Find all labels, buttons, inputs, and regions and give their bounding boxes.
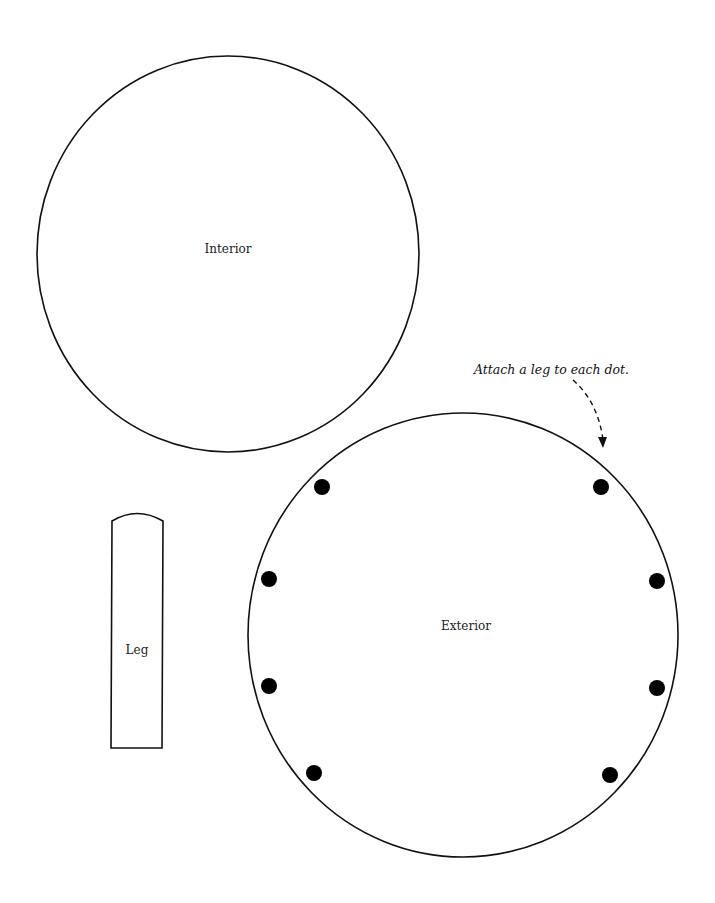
leg-attachment-dot <box>314 479 330 495</box>
leg-attachment-dot <box>602 767 618 783</box>
exterior-piece: Exterior <box>248 413 678 857</box>
leg-attachment-dot <box>306 765 322 781</box>
leg-attachment-dot <box>649 680 665 696</box>
dashed-arrow-line <box>573 380 603 440</box>
annotation-text: Attach a leg to each dot. <box>473 362 629 377</box>
arrowhead-icon <box>598 437 607 448</box>
annotation: Attach a leg to each dot. <box>473 362 629 448</box>
leg-attachment-dot <box>261 571 277 587</box>
leg-piece: Leg <box>111 514 163 749</box>
leg-attachment-dot <box>649 573 665 589</box>
interior-label: Interior <box>205 242 252 256</box>
interior-piece: Interior <box>37 56 419 452</box>
leg-label: Leg <box>126 643 149 657</box>
exterior-circle-outline <box>248 413 678 857</box>
leg-attachment-dot <box>261 678 277 694</box>
exterior-label: Exterior <box>441 619 491 633</box>
leg-outline <box>111 514 163 749</box>
leg-attachment-dot <box>593 479 609 495</box>
craft-template: Interior Leg Exterior Attach a leg to ea… <box>0 0 715 903</box>
